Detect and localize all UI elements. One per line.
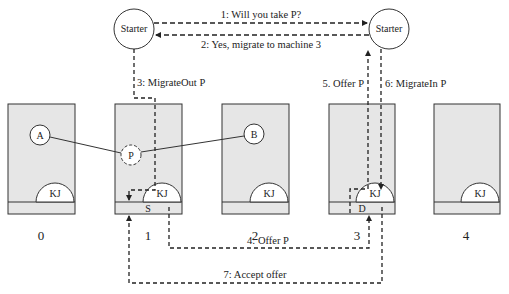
svg-text:Starter: Starter bbox=[121, 23, 148, 34]
svg-text:Starter: Starter bbox=[376, 23, 403, 34]
msg-4-label: 4: Offer P bbox=[247, 235, 289, 246]
starter-destination: Starter bbox=[369, 9, 409, 49]
msg-3-label: 3: MigrateOut P bbox=[137, 77, 205, 88]
process-a: A bbox=[30, 125, 50, 145]
kernel-label: KJ bbox=[263, 188, 274, 199]
machine-number: 4 bbox=[463, 228, 470, 243]
kernel-label: KJ bbox=[474, 188, 485, 199]
svg-text:A: A bbox=[36, 130, 44, 141]
machine-3: KJ D 3 bbox=[329, 104, 395, 243]
svg-text:P: P bbox=[128, 150, 134, 161]
msg-5-label: 5. Offer P bbox=[322, 78, 364, 89]
machine-number: 0 bbox=[38, 228, 45, 243]
machine-4: KJ 4 bbox=[434, 104, 500, 243]
msg-7-label: 7: Accept offer bbox=[224, 269, 287, 280]
msg-2-label: 2: Yes, migrate to machine 3 bbox=[201, 39, 321, 50]
svg-text:B: B bbox=[251, 129, 258, 140]
starter-source: Starter bbox=[114, 9, 154, 49]
kernel-label: KJ bbox=[156, 188, 167, 199]
process-p-migrating: P bbox=[121, 145, 141, 165]
machine-1: KJ S 1 bbox=[115, 104, 182, 243]
source-label: S bbox=[145, 203, 151, 214]
kernel-label: KJ bbox=[369, 188, 380, 199]
msg-1-label: 1: Will you take P? bbox=[221, 9, 302, 20]
migration-diagram: KJ 0 KJ S 1 KJ 2 KJ D 3 KJ 4 A bbox=[0, 0, 509, 294]
machine-number: 3 bbox=[354, 228, 361, 243]
kernel-label: KJ bbox=[49, 188, 60, 199]
msg-6-label: 6: MigrateIn P bbox=[385, 78, 446, 89]
process-b: B bbox=[244, 124, 264, 144]
machine-number: 1 bbox=[145, 228, 152, 243]
destination-label: D bbox=[358, 203, 365, 214]
